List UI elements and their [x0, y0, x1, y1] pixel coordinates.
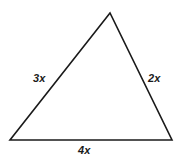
side-label-left: 3x [33, 73, 46, 84]
geometry-figure: 3x 2x 4x [0, 0, 181, 164]
side-label-right: 2x [148, 73, 161, 84]
side-label-bottom: 4x [78, 145, 91, 156]
